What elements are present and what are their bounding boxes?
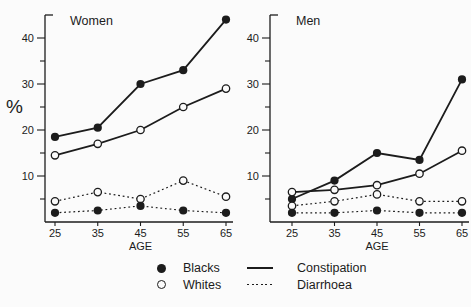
data-point-open: [51, 198, 58, 205]
data-point-open: [331, 186, 338, 193]
x-tick-label: 55: [413, 227, 425, 239]
men-chart: 102030402535455565AGEMen: [236, 0, 471, 258]
data-point-open: [331, 198, 338, 205]
data-point-open: [94, 140, 101, 147]
diarrhoea-line-icon: [247, 284, 273, 285]
data-point-filled: [458, 209, 466, 217]
panel-title: Women: [70, 14, 113, 28]
data-point-filled: [51, 133, 59, 141]
data-point-open: [137, 126, 144, 133]
x-tick-label: 35: [92, 227, 104, 239]
blacks-marker-icon: [157, 264, 166, 273]
data-point-filled: [179, 206, 187, 214]
x-tick-label: 25: [286, 227, 298, 239]
x-axis-label: AGE: [129, 240, 152, 252]
data-point-open: [222, 85, 229, 92]
data-point-open: [416, 198, 423, 205]
x-axis-label: AGE: [365, 240, 388, 252]
legend: Blacks Constipation Whites Diarrhoea: [157, 262, 367, 291]
x-tick-label: 65: [456, 227, 468, 239]
data-point-filled: [136, 80, 144, 88]
data-point-filled: [330, 177, 338, 185]
y-tick-label: 20: [247, 124, 259, 136]
whites-marker-icon: [157, 280, 166, 289]
data-point-filled: [288, 209, 296, 217]
x-tick-label: 25: [49, 227, 61, 239]
y-tick-label: 30: [247, 78, 259, 90]
data-point-filled: [415, 156, 423, 164]
data-point-filled: [415, 209, 423, 217]
data-point-open: [137, 195, 144, 202]
data-point-filled: [458, 75, 466, 83]
data-point-filled: [94, 124, 102, 132]
y-tick-label: 40: [22, 32, 34, 44]
data-point-filled: [179, 66, 187, 74]
data-point-open: [458, 198, 465, 205]
y-tick-label: 40: [247, 32, 259, 44]
data-point-filled: [222, 209, 230, 217]
legend-label-constipation: Constipation: [297, 262, 367, 275]
data-point-open: [222, 193, 229, 200]
series-line-solid: [55, 89, 226, 156]
x-tick-label: 65: [220, 227, 232, 239]
data-point-open: [288, 188, 295, 195]
data-point-open: [94, 188, 101, 195]
data-point-filled: [51, 209, 59, 217]
data-point-open: [180, 177, 187, 184]
y-tick-label: 20: [22, 124, 34, 136]
data-point-open: [180, 103, 187, 110]
x-tick-label: 45: [134, 227, 146, 239]
data-point-open: [373, 182, 380, 189]
data-point-open: [288, 202, 295, 209]
data-point-open: [416, 170, 423, 177]
y-tick-label: 10: [22, 170, 34, 182]
y-tick-label: 30: [22, 78, 34, 90]
y-tick-label: 10: [247, 170, 259, 182]
data-point-filled: [330, 209, 338, 217]
data-point-filled: [373, 149, 381, 157]
legend-label-blacks: Blacks: [183, 262, 247, 275]
data-point-open: [458, 147, 465, 154]
data-point-filled: [222, 16, 230, 24]
x-tick-label: 35: [328, 227, 340, 239]
constipation-line-icon: [247, 267, 273, 269]
data-point-open: [51, 152, 58, 159]
figure-container: % 102030402535455565AGEWomen 10203040253…: [0, 0, 471, 307]
panel-title: Men: [296, 14, 320, 28]
legend-label-whites: Whites: [183, 279, 247, 292]
x-tick-label: 55: [177, 227, 189, 239]
series-line-solid: [55, 20, 226, 137]
data-point-open: [373, 191, 380, 198]
data-point-filled: [94, 206, 102, 214]
data-point-filled: [373, 206, 381, 214]
women-chart: 102030402535455565AGEWomen: [0, 0, 235, 258]
legend-label-diarrhoea: Diarrhoea: [297, 279, 367, 292]
data-point-filled: [136, 202, 144, 210]
x-tick-label: 45: [371, 227, 383, 239]
